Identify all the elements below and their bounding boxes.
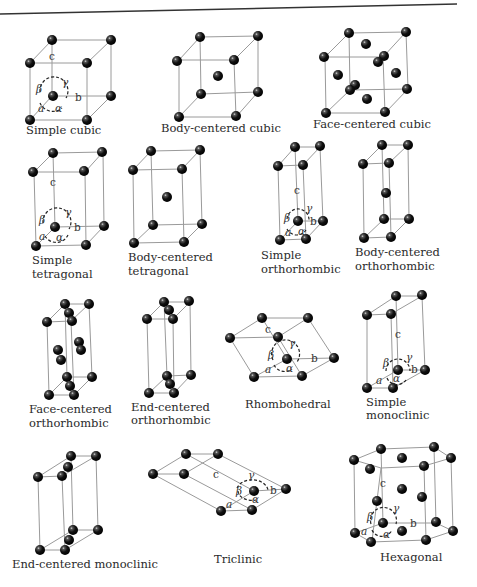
caption-face-centered-orthorhombic-2: orthorhombic (29, 416, 109, 430)
beta-label: β (38, 214, 45, 226)
beta-label: β (283, 212, 290, 224)
caption-body-centered-orthorhombic-2: orthorhombic (355, 259, 435, 273)
alpha-label: α (55, 102, 62, 114)
lattice-simple-monoclinic: c b a β γ α Simple monoclinic (362, 290, 430, 422)
axis-b-label: b (411, 363, 418, 375)
caption-simple-cubic: Simple cubic (26, 123, 101, 137)
gamma-label: γ (406, 351, 413, 363)
lattice-simple-tetragonal: c b a β γ α Simple tetragonal (28, 147, 109, 281)
alpha-label: α (393, 372, 400, 384)
atoms (42, 299, 97, 400)
lattice-body-centered-cubic: Body-centered cubic (161, 31, 281, 135)
caption-simple-monoclinic-2: monoclinic (366, 408, 429, 422)
lattice-body-centered-orthorhombic: Body-centered orthorhombic (355, 140, 441, 273)
axis-c-label: c (265, 323, 271, 335)
axis-b-label: b (270, 484, 277, 496)
lattice-face-centered-orthorhombic: Face-centered orthorhombic (29, 299, 113, 430)
caption-face-centered-cubic: Face-centered cubic (313, 117, 431, 131)
caption-body-centered-tetragonal-2: tetragonal (128, 264, 189, 278)
caption-end-centered-orthorhombic-1: End-centered (131, 400, 210, 414)
caption-simple-monoclinic-1: Simple (366, 395, 407, 409)
caption-triclinic: Triclinic (214, 552, 262, 566)
lattice-end-centered-monoclinic: End-centered monoclinic (12, 451, 158, 571)
caption-body-centered-tetragonal-1: Body-centered (128, 250, 214, 264)
caption-hexagonal: Hexagonal (380, 550, 443, 564)
axis-a-label: a (285, 226, 291, 238)
caption-face-centered-orthorhombic-1: Face-centered (29, 402, 113, 416)
alpha-label: α (252, 493, 259, 505)
caption-simple-orthorhombic-1: Simple (261, 248, 302, 262)
axis-a-label: a (361, 525, 367, 537)
gamma-label: γ (306, 202, 313, 214)
axis-b-label: b (410, 517, 417, 529)
caption-simple-tetragonal-2: tetragonal (32, 267, 93, 281)
axis-c-label: c (50, 176, 56, 188)
axis-c-label: c (380, 477, 386, 489)
beta-label: β (382, 357, 389, 369)
beta-label: β (35, 83, 42, 95)
axis-c-label: c (294, 184, 300, 196)
gamma-label: γ (65, 206, 72, 218)
caption-rhombohedral: Rhombohedral (245, 397, 331, 411)
lattice-hexagonal: c b a β γ α Hexagonal (349, 442, 458, 564)
axis-a-label: a (39, 230, 45, 242)
alpha-label: α (298, 225, 305, 237)
caption-body-centered-orthorhombic-1: Body-centered (355, 245, 441, 259)
lattice-rhombohedral: c b a β γ α Rhombohedral (225, 313, 339, 411)
atoms (33, 451, 103, 555)
axis-c-label: c (49, 50, 55, 62)
atoms (142, 296, 196, 398)
beta-label: β (235, 485, 242, 497)
beta-label: β (366, 511, 373, 523)
axis-c-label: c (395, 328, 401, 340)
lattice-end-centered-orthorhombic: End-centered orthorhombic (131, 296, 211, 427)
axis-b-label: b (75, 91, 82, 103)
gamma-label: γ (248, 469, 255, 481)
axis-a-label: a (226, 498, 232, 510)
alpha-label: α (286, 362, 293, 374)
axis-b-label: b (311, 352, 318, 364)
gamma-label: γ (393, 502, 400, 514)
lattice-face-centered-cubic: Face-centered cubic (313, 27, 431, 131)
atoms (358, 140, 414, 243)
lattice-body-centered-tetragonal: Body-centered tetragonal (128, 145, 214, 278)
axis-b-label: b (310, 215, 317, 227)
caption-end-centered-orthorhombic-2: orthorhombic (131, 413, 211, 427)
lattice-simple-orthorhombic: c b a β γ α Simple orthorhombic (261, 141, 341, 276)
gamma-label: γ (62, 76, 69, 88)
atoms (128, 145, 207, 248)
alpha-label: α (56, 231, 63, 243)
gamma-label: γ (289, 337, 296, 349)
axis-b-label: b (74, 221, 81, 233)
caption-simple-orthorhombic-2: orthorhombic (261, 262, 341, 276)
caption-body-centered-cubic: Body-centered cubic (161, 121, 281, 135)
axis-a-label: a (38, 102, 44, 114)
lattice-simple-cubic: c b a β γ α Simple cubic (25, 35, 116, 137)
alpha-label: α (383, 528, 390, 540)
top-rule (0, 4, 457, 14)
axis-a-label: a (376, 374, 382, 386)
lattice-triclinic: c b a β γ α Triclinic (148, 449, 291, 566)
bravais-lattice-diagram: c b a β γ α Simple cubic Body-centered c… (0, 0, 477, 587)
axis-a-label: a (265, 363, 271, 375)
axis-c-label: c (213, 468, 219, 480)
caption-simple-tetragonal-1: Simple (32, 253, 73, 267)
beta-label: β (267, 349, 274, 361)
caption-end-centered-monoclinic: End-centered monoclinic (12, 557, 158, 571)
